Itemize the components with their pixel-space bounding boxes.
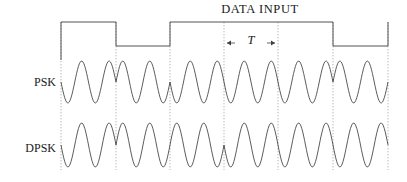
dpsk-waveform [61, 123, 388, 167]
timing-arrow [227, 41, 275, 46]
waveform-canvas [0, 0, 407, 182]
psk-waveform [61, 61, 388, 103]
waveform-figure: DATA INPUT PSK DPSK T [0, 0, 407, 182]
data-input-waveform [61, 22, 388, 60]
